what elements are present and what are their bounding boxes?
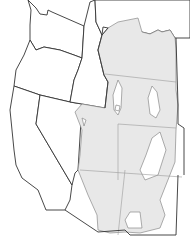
range-map [0, 0, 190, 247]
border-arizona-ca [65, 210, 98, 232]
border-east-wyoming [178, 105, 184, 175]
lake-6 [115, 105, 120, 111]
